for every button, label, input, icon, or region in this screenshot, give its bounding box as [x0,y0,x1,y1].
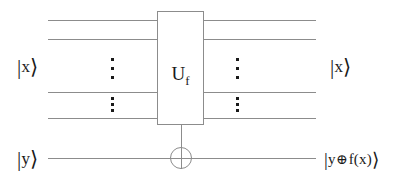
xor-operator-icon: ⊕ [336,152,349,167]
ket-symbol: y [21,149,30,168]
ellipsis-left-lower-icon [110,97,115,112]
ket-symbol: x [21,57,30,76]
input-register-label: |x⟩ [17,57,39,78]
wire-y-left [48,158,170,159]
ket-symbol-right: f(x) [349,151,372,167]
output-ancilla-label: |y⊕f(x)⟩ [324,150,380,169]
control-line [181,125,182,147]
wire-x1-left [48,20,157,21]
uf-gate-box[interactable]: Uf [157,11,204,125]
wire-x2-left [48,39,157,40]
wire-x4-left [48,118,157,119]
input-ancilla-label: |y⟩ [17,149,39,170]
ket-symbol: x [334,57,343,76]
wire-x4-right [204,118,316,119]
ket-angle: ⟩ [372,149,380,170]
wire-x3-right [204,92,316,93]
wire-x2-right [204,39,316,40]
cnot-target-horizontal-bar [170,158,192,159]
ellipsis-right-lower-icon [235,97,240,112]
uf-gate-label-subscript: f [185,73,189,88]
uf-gate-label: Uf [158,64,203,87]
wire-y-right [192,158,316,159]
quantum-circuit-diagram: Uf |x⟩ |x⟩ |y⟩ |y⊕f(x)⟩ [0,0,400,181]
wire-x1-right [204,20,316,21]
ket-angle: ⟩ [30,55,38,79]
ket-angle: ⟩ [30,147,38,171]
wire-x3-left [48,92,157,93]
ellipsis-right-upper-icon [235,58,240,79]
uf-gate-label-main: U [171,63,185,84]
ellipsis-left-upper-icon [110,58,115,79]
output-register-label: |x⟩ [330,57,352,78]
ket-symbol-left: y [328,151,336,167]
ket-angle: ⟩ [343,55,351,79]
